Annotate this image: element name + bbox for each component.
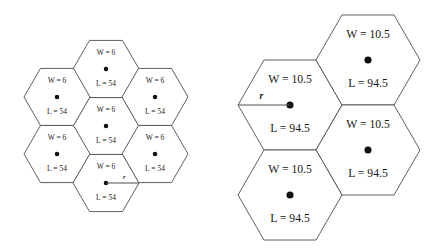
hex-l-label: L = 94.5 bbox=[270, 122, 310, 135]
hex-l-label: L = 94.5 bbox=[270, 212, 310, 225]
left-cluster: W = 6L = 54W = 6L = 54W = 6L = 54W = 6L … bbox=[24, 40, 188, 211]
hex-w-label: W = 6 bbox=[97, 162, 116, 171]
hex-w-label: W = 6 bbox=[146, 133, 165, 142]
hex-l-label: L = 54 bbox=[145, 107, 165, 116]
hexagon-diagram: W = 6L = 54W = 6L = 54W = 6L = 54W = 6L … bbox=[0, 0, 428, 252]
hex-w-label: W = 6 bbox=[48, 76, 67, 85]
hex-w-label: W = 10.5 bbox=[346, 28, 390, 41]
hex-l-label: L = 54 bbox=[47, 107, 67, 116]
hex-center-dot bbox=[364, 56, 371, 63]
hex-center-dot bbox=[55, 95, 59, 99]
hex-center-dot bbox=[104, 124, 108, 128]
hex-w-label: W = 6 bbox=[48, 133, 67, 142]
hex-center-dot bbox=[55, 152, 59, 156]
hex-w-label: W = 10.5 bbox=[346, 118, 390, 131]
hex-center-dot bbox=[104, 67, 108, 71]
hex-l-label: L = 54 bbox=[96, 136, 116, 145]
hex-w-label: W = 6 bbox=[97, 48, 116, 57]
hex-l-label: L = 94.5 bbox=[348, 77, 388, 90]
diagram-stage: W = 6L = 54W = 6L = 54W = 6L = 54W = 6L … bbox=[0, 0, 428, 252]
hex-center-dot bbox=[153, 152, 157, 156]
hex-center-dot bbox=[153, 95, 157, 99]
hex-w-label: W = 10.5 bbox=[268, 73, 312, 86]
radius-label: r bbox=[260, 90, 264, 101]
hex-center-dot bbox=[364, 146, 371, 153]
hex-l-label: L = 54 bbox=[145, 164, 165, 173]
hex-w-label: W = 10.5 bbox=[268, 163, 312, 176]
hex-l-label: L = 54 bbox=[47, 164, 67, 173]
hex-l-label: L = 54 bbox=[96, 79, 116, 88]
hex-center-dot bbox=[286, 191, 293, 198]
hex-w-label: W = 6 bbox=[97, 105, 116, 114]
hex-l-label: L = 54 bbox=[96, 193, 116, 202]
right-cluster: W = 10.5L = 94.5W = 10.5L = 94.5W = 10.5… bbox=[238, 15, 420, 240]
hex-w-label: W = 6 bbox=[146, 76, 165, 85]
hex-l-label: L = 94.5 bbox=[348, 167, 388, 180]
